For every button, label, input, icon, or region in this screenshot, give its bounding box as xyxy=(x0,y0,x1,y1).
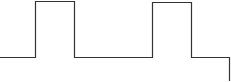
pulse-diagram xyxy=(0,0,231,81)
waveform-line xyxy=(0,2,230,82)
